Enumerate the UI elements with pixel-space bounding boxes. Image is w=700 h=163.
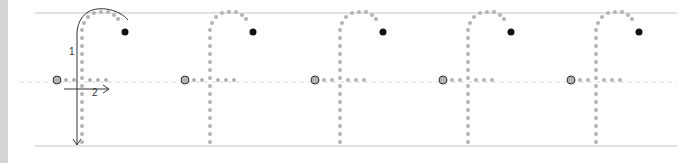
trace-dot — [478, 11, 482, 15]
trace-dot — [338, 52, 342, 56]
trace-dot — [80, 84, 84, 88]
trace-dot — [227, 10, 231, 14]
trace-dot — [594, 116, 598, 120]
trace-dot — [613, 10, 617, 14]
trace-dot — [466, 116, 470, 120]
trace-dot — [466, 44, 470, 48]
trace-dot — [472, 15, 476, 19]
trace-dot — [466, 68, 470, 72]
stroke-start-dot-icon — [250, 29, 257, 36]
trace-dot — [208, 132, 212, 136]
start-point-icon — [181, 76, 189, 84]
trace-dot — [338, 68, 342, 72]
stroke-number-2: 2 — [92, 87, 98, 98]
trace-dot — [208, 60, 212, 64]
trace-dot — [208, 124, 212, 128]
trace-dot — [80, 132, 84, 136]
trace-dot — [594, 84, 598, 88]
trace-dot — [466, 92, 470, 96]
trace-dot — [630, 17, 634, 21]
stroke-number-1: 1 — [69, 46, 75, 57]
trace-dot — [99, 10, 103, 14]
trace-dot — [106, 10, 110, 14]
handwriting-sheet — [0, 0, 700, 163]
trace-dot — [594, 76, 598, 80]
trace-dot — [338, 116, 342, 120]
trace-dot — [600, 15, 604, 19]
stroke-start-dot-icon — [636, 29, 643, 36]
trace-dot — [466, 76, 470, 80]
trace-dot — [338, 124, 342, 128]
trace-dot — [466, 124, 470, 128]
stroke-start-dot-icon — [122, 29, 129, 36]
trace-dot — [322, 78, 326, 82]
start-point-icon — [567, 76, 575, 84]
trace-dot — [450, 78, 454, 82]
trace-dot — [490, 78, 494, 82]
trace-dot — [200, 78, 204, 82]
trace-dot — [80, 140, 84, 144]
trace-dot — [492, 10, 496, 14]
trace-dot — [338, 100, 342, 104]
stroke-start-dot-icon — [508, 29, 515, 36]
trace-dot — [350, 11, 354, 15]
trace-dot — [338, 92, 342, 96]
trace-dot — [234, 10, 238, 14]
trace-dot — [594, 60, 598, 64]
trace-dot — [594, 28, 598, 32]
trace-dot — [208, 68, 212, 72]
letter-f-4 — [439, 10, 515, 144]
trace-dot — [594, 124, 598, 128]
trace-dot — [354, 78, 358, 82]
trace-dot — [72, 78, 76, 82]
letter-f-2 — [181, 10, 257, 144]
trace-dot — [466, 140, 470, 144]
trace-dot — [498, 13, 502, 17]
trace-dot — [86, 15, 90, 19]
trace-dot — [82, 21, 86, 25]
trace-dot — [606, 11, 610, 15]
trace-dot — [610, 78, 614, 82]
trace-dot — [80, 108, 84, 112]
trace-dot — [208, 116, 212, 120]
trace-dot — [594, 92, 598, 96]
trace-dot — [340, 21, 344, 25]
trace-dot — [466, 60, 470, 64]
trace-dot — [80, 116, 84, 120]
trace-dot — [594, 140, 598, 144]
trace-dot — [80, 68, 84, 72]
trace-dot — [594, 108, 598, 112]
trace-dot — [626, 13, 630, 17]
trace-dot — [80, 28, 84, 32]
trace-dot — [80, 52, 84, 56]
trace-dot — [370, 13, 374, 17]
trace-dot — [80, 44, 84, 48]
trace-dot — [618, 78, 622, 82]
trace-dot — [594, 52, 598, 56]
trace-dot — [338, 132, 342, 136]
trace-dot — [208, 108, 212, 112]
trace-dot — [220, 11, 224, 15]
trace-dot — [208, 52, 212, 56]
trace-dot — [620, 10, 624, 14]
trace-dot — [208, 100, 212, 104]
trace-dot — [330, 78, 334, 82]
trace-dot — [338, 28, 342, 32]
stroke-1-arrow — [77, 9, 128, 144]
trace-dot — [208, 92, 212, 96]
trace-dot — [357, 10, 361, 14]
trace-dot — [485, 10, 489, 14]
trace-dot — [578, 78, 582, 82]
trace-dot — [96, 78, 100, 82]
trace-dot — [92, 11, 96, 15]
trace-dot — [466, 52, 470, 56]
trace-dot — [214, 15, 218, 19]
trace-dot — [210, 21, 214, 25]
trace-dot — [338, 60, 342, 64]
trace-dot — [80, 60, 84, 64]
trace-dot — [208, 76, 212, 80]
trace-dot — [208, 28, 212, 32]
trace-dot — [192, 78, 196, 82]
letter-f-5 — [567, 10, 643, 144]
trace-dot — [466, 132, 470, 136]
